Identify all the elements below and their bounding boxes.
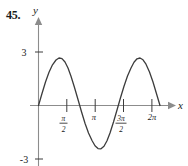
sine-curve-path (39, 58, 161, 149)
frac-numerator: π (62, 114, 66, 123)
figure-container: 45. x y 3 -3 π 2 π (0, 0, 188, 166)
x-axis-label: x (177, 99, 183, 111)
y-axis-arrow-icon (35, 17, 42, 25)
y-axis-label: y (32, 4, 38, 16)
x-tick-label-2pi: 2π (148, 112, 157, 122)
y-tick-label-3: 3 (22, 47, 27, 58)
x-tick-label-pi: π (92, 112, 97, 122)
frac-numerator: 3π (116, 114, 125, 123)
x-axis-arrow-icon (168, 102, 176, 109)
x-tick-label-pi-over-2: π 2 (60, 114, 68, 134)
sine-graph-plot: x y 3 -3 π 2 π 3π 2 2π (0, 0, 188, 166)
x-tick-label-3pi-over-2: 3π 2 (116, 114, 127, 134)
frac-denominator: 2 (119, 125, 123, 134)
y-tick-label-minus-3: -3 (20, 154, 28, 165)
frac-denominator: 2 (62, 125, 66, 134)
